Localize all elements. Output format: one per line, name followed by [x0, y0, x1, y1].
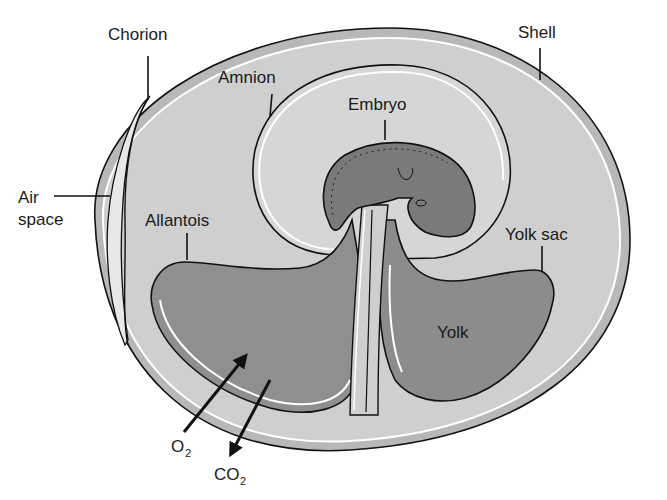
label-amnion: Amnion	[218, 68, 276, 87]
label-co2-subscript: 2	[240, 475, 246, 487]
label-yolk-sac: Yolk sac	[505, 225, 568, 244]
label-air-space-1: Air	[18, 188, 39, 207]
label-o2-subscript: 2	[185, 447, 191, 459]
label-yolk: Yolk	[437, 323, 469, 342]
label-chorion: Chorion	[108, 25, 168, 44]
egg-diagram: Chorion Shell Amnion Embryo Air space Al…	[0, 0, 667, 500]
label-co2: CO	[214, 465, 240, 484]
label-allantois: Allantois	[145, 211, 209, 230]
label-shell: Shell	[518, 23, 556, 42]
label-o2: O	[171, 437, 184, 456]
label-air-space-2: space	[18, 210, 63, 229]
label-embryo: Embryo	[348, 95, 407, 114]
